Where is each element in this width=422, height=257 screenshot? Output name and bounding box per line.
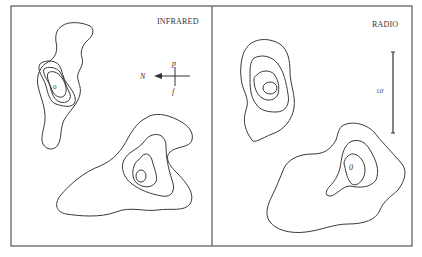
- compass: N p f: [139, 59, 190, 96]
- radio-label: RADIO: [372, 20, 398, 29]
- infrared-source-lower-right: [57, 114, 193, 216]
- scale-bar: 10': [376, 52, 395, 133]
- contour-peak: [263, 82, 277, 94]
- contour-2: [250, 56, 289, 112]
- contour-3: [344, 154, 365, 185]
- contour-outer: [57, 114, 193, 216]
- f-label: f: [172, 87, 176, 96]
- p-label: p: [171, 59, 176, 68]
- arrow-left-icon: [154, 73, 162, 79]
- scale-bar-label: 10': [376, 87, 384, 95]
- figure-canvas: INFRARED 0 N p f RADIO: [0, 0, 422, 257]
- contour-outer: [241, 40, 295, 142]
- contour-map-figure: INFRARED 0 N p f RADIO: [0, 0, 422, 257]
- infrared-panel: INFRARED 0 N p f: [37, 17, 198, 216]
- peak-marker: 0: [349, 163, 353, 172]
- radio-source-lower-right: 0: [267, 123, 405, 232]
- infrared-label: INFRARED: [157, 17, 199, 26]
- north-label: N: [139, 72, 146, 81]
- radio-source-upper-left: [241, 40, 295, 142]
- radio-panel: RADIO 10' 0: [241, 20, 405, 233]
- contour-3: [254, 71, 279, 100]
- infrared-source-upper-left: 0: [37, 23, 92, 149]
- contour-3: [133, 154, 157, 187]
- peak-marker: 0: [53, 83, 57, 91]
- contour-peak: [136, 170, 146, 182]
